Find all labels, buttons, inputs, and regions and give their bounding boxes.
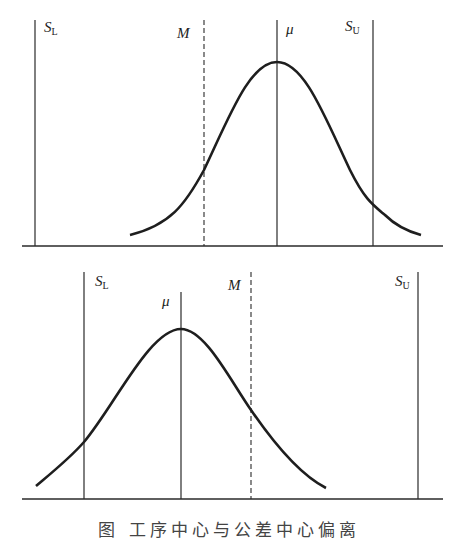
figure-caption: 图 工序中心与公差中心偏离 [0, 516, 458, 541]
top-target-label: M [176, 25, 191, 41]
top-normal-curve [130, 62, 421, 235]
bottom-lower-spec-label: SL [95, 273, 109, 291]
bottom-mean-label: μ [161, 293, 170, 309]
top-lower-spec-label: SL [44, 19, 58, 37]
top-panel: SL M μ SU [22, 18, 443, 246]
top-mean-label: μ [285, 21, 294, 37]
bottom-panel: SL μ M SU [22, 272, 443, 499]
top-upper-spec-label: SU [345, 18, 361, 36]
bottom-upper-spec-label: SU [395, 273, 411, 291]
bottom-target-label: M [227, 277, 242, 293]
